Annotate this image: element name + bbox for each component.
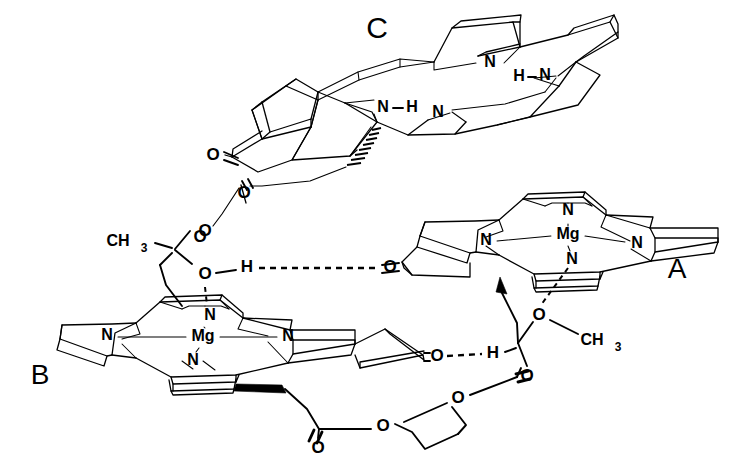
atom-n-c-4: N: [539, 66, 551, 83]
atom-n-a-left: N: [480, 231, 492, 248]
atom-o-b-ester-carbonyl: O: [311, 438, 324, 457]
atom-o-a-ester-link: O: [451, 388, 464, 407]
atom-o-b-coordinating: O: [198, 264, 211, 283]
atom-n-b-top: N: [204, 306, 216, 323]
atom-n-b-left: N: [101, 326, 113, 343]
atom-o-b-ester-link: O: [376, 416, 389, 435]
atom-o-a-keto: O: [383, 257, 396, 276]
ring-label-c: C: [366, 11, 388, 44]
atom-n-b-right: N: [282, 327, 294, 344]
ring-label-a: A: [668, 253, 687, 284]
ring-label-b: B: [31, 359, 50, 390]
atom-n-a-bottom: N: [566, 250, 578, 267]
atom-o-b-keto: O: [430, 346, 443, 365]
atom-mg-a: Mg: [556, 225, 579, 242]
atom-h-a-hbond: H: [487, 343, 499, 362]
atom-ch3-b-subscript: 3: [141, 241, 148, 255]
atom-o-b-ester-upper: O: [193, 227, 206, 246]
atom-n-a-top: N: [562, 201, 574, 218]
atom-o-a-methoxy: O: [532, 305, 545, 324]
atom-ch3-b-label: CH: [106, 232, 129, 249]
atom-n-c-1: N: [484, 53, 496, 70]
atom-ch3-a-subscript: 3: [615, 340, 622, 354]
atom-o-c-ester-carbonyl: O: [237, 183, 250, 202]
atom-n-a-right: N: [631, 234, 643, 251]
chemical-structure-diagram: C A B N N N N H H O O O Mg N N N N O O O…: [0, 0, 741, 473]
atom-n-c-3: N: [432, 103, 444, 120]
atom-n-c-2: N: [377, 98, 389, 115]
atom-h-b-hbond: H: [241, 257, 253, 276]
atom-ch3-a-label: CH: [580, 331, 603, 348]
atom-n-b-bottom: N: [187, 351, 199, 368]
figure-canvas: C A B N N N N H H O O O Mg N N N N O O O…: [0, 0, 741, 473]
atom-h-c-1: H: [406, 98, 418, 115]
atom-mg-b: Mg: [191, 327, 214, 344]
atom-h-c-2: H: [513, 67, 525, 84]
atom-o-a-ester-carbonyl: O: [520, 366, 533, 385]
atom-o-c-keto: O: [206, 145, 219, 164]
